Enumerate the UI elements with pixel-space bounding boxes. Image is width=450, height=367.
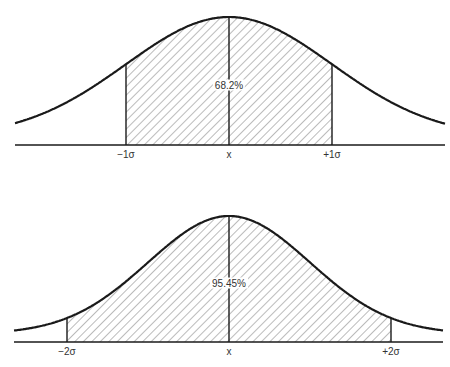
plus-one-sigma-label: +1σ [323, 149, 341, 160]
minus-two-sigma-label: −2σ [58, 346, 76, 357]
mean-label: x [227, 346, 232, 357]
mean-label: x [227, 149, 232, 160]
normal-distribution-diagrams [0, 0, 450, 367]
percent-68-label: 68.2% [213, 79, 245, 90]
percent-9545-label: 95.45% [210, 277, 248, 288]
plus-two-sigma-label: +2σ [382, 346, 400, 357]
minus-one-sigma-label: −1σ [117, 149, 135, 160]
